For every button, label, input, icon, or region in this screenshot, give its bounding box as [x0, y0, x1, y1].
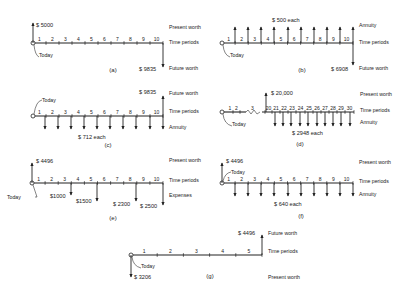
period-number: 4	[76, 176, 79, 182]
period-number: 2	[50, 176, 53, 182]
cash-amount-label: $ 5000	[36, 22, 53, 28]
time-axis	[133, 253, 262, 257]
time-axis	[224, 181, 353, 185]
annuity-amount-label: $ 640 each	[274, 201, 302, 207]
cash-flow-diagram-b: 12345678910$ 6908$ 500 eachAnnuityTime p…	[220, 17, 389, 73]
period-number: 1	[227, 36, 230, 42]
period-number: 8	[129, 176, 132, 182]
cash-flow-diagram-c: 12345678910$ 9835$ 712 eachFuture worthT…	[31, 89, 199, 148]
row-label: Time periods	[359, 39, 389, 45]
cash-inflow-arrow-icon	[259, 27, 262, 44]
cash-amount-label: $ 2300	[113, 201, 130, 207]
period-number: 8	[129, 109, 132, 115]
cash-amount-label: $ 20,000	[271, 90, 293, 96]
cash-inflow-arrow-icon	[286, 27, 289, 44]
cash-outflow-arrow-icon	[259, 183, 262, 197]
period-number: 10	[154, 109, 160, 115]
cash-amount-label: $ 3206	[134, 274, 151, 280]
cash-inflow-arrow-icon	[325, 27, 328, 44]
period-number: 4	[77, 109, 80, 115]
cash-flow-diagram-e: 12345678910$ 4496$1000$1500$ 2300$ 2500P…	[7, 157, 201, 221]
row-label: Time periods	[268, 248, 298, 254]
cash-outflow-arrow-icon	[289, 112, 292, 127]
period-number: 6	[103, 176, 106, 182]
period-number: 9	[142, 36, 145, 42]
period-number: 6	[103, 36, 106, 42]
row-label: Annuity	[359, 191, 377, 197]
row-label: Annuity	[359, 22, 377, 28]
time-axis	[224, 110, 354, 114]
period-number: 24	[298, 105, 304, 111]
period-number: 3	[63, 176, 66, 182]
cash-outflow-arrow-icon	[95, 183, 98, 202]
period-number: 10	[344, 36, 350, 42]
period-number: 4	[266, 36, 269, 42]
period-number: 8	[319, 36, 322, 42]
period-number: 5	[90, 36, 93, 42]
cash-outflow-arrow-icon	[233, 183, 236, 197]
cash-amount-label: $1500	[76, 198, 92, 204]
cash-outflow-arrow-icon	[161, 116, 164, 130]
diagram-caption: (g)	[206, 273, 213, 279]
period-number: 8	[319, 176, 322, 182]
cash-outflow-arrow-icon	[351, 43, 354, 66]
cash-inflow-arrow-icon	[260, 235, 263, 256]
cash-amount-label: $ 4496	[226, 158, 243, 164]
period-number: 30	[347, 105, 353, 111]
period-number: 10	[344, 176, 350, 182]
cash-outflow-arrow-icon	[286, 183, 289, 197]
row-label: Present worth	[169, 24, 201, 30]
period-number: 29	[338, 105, 344, 111]
period-number: 9	[332, 176, 335, 182]
cash-inflow-arrow-icon	[31, 23, 34, 44]
cash-amount-label: $ 6908	[331, 66, 348, 72]
cash-outflow-arrow-icon	[43, 116, 46, 130]
today-label: Today	[232, 121, 246, 127]
period-number: 21	[273, 105, 279, 111]
cash-outflow-arrow-icon	[56, 116, 59, 130]
period-number: 5	[90, 176, 93, 182]
row-label: Present worth	[268, 274, 300, 280]
cash-outflow-arrow-icon	[306, 112, 309, 127]
period-number: 22	[281, 105, 287, 111]
cash-outflow-arrow-icon	[69, 183, 72, 196]
cash-outflow-arrow-icon	[351, 183, 354, 197]
cash-outflow-arrow-icon	[325, 183, 328, 197]
period-number: 6	[293, 176, 296, 182]
cash-inflow-arrow-icon	[351, 27, 354, 44]
period-number: 6	[293, 36, 296, 42]
cash-flow-diagram-g: 12345$ 4496$ 3206Future worthTime period…	[129, 230, 300, 280]
period-number: 3	[251, 105, 254, 111]
period-number: 2	[240, 176, 243, 182]
today-origin-marker	[220, 41, 224, 45]
diagram-caption: (c)	[105, 142, 112, 148]
period-number: 2	[51, 109, 54, 115]
cash-outflow-arrow-icon	[246, 183, 249, 197]
row-label: Present worth	[360, 91, 392, 97]
period-number: 9	[142, 176, 145, 182]
period-number: 5	[90, 109, 93, 115]
cash-amount-label: $ 9835	[139, 66, 156, 72]
cash-amount-label: $ 4496	[238, 230, 255, 236]
today-origin-marker	[220, 110, 224, 114]
row-label: Expenses	[169, 192, 192, 198]
period-number: 1	[229, 105, 232, 111]
period-number: 10	[154, 36, 160, 42]
row-label: Time periods	[169, 108, 199, 114]
period-number: 3	[253, 176, 256, 182]
cash-outflow-arrow-icon	[299, 183, 302, 197]
cash-amount-label: $ 9835	[139, 89, 156, 95]
cash-inflow-arrow-icon	[299, 27, 302, 44]
period-number: 2	[240, 36, 243, 42]
cash-inflow-arrow-icon	[30, 163, 33, 184]
cash-outflow-arrow-icon	[95, 116, 98, 130]
cash-flow-diagram-f: 12345678910$ 4496$ 640 eachPresent worth…	[220, 158, 391, 219]
period-number: 2	[51, 36, 54, 42]
time-axis	[34, 181, 163, 185]
row-label: Present worth	[359, 159, 391, 165]
annuity-amount-label: $ 2948 each	[292, 130, 323, 136]
row-label: Present worth	[169, 157, 201, 163]
cash-outflow-arrow-icon	[339, 112, 342, 127]
cash-outflow-arrow-icon	[338, 183, 341, 197]
period-number: 7	[306, 176, 309, 182]
